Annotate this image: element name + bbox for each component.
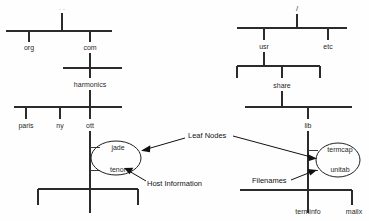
tree-diagram-svg: . . org com harmonics paris ny ott bbox=[0, 0, 369, 221]
node-share: share bbox=[273, 82, 291, 89]
left-root-mark: . . bbox=[59, 4, 65, 11]
node-termcap: termcap bbox=[327, 146, 352, 154]
node-tenor: tenor bbox=[110, 166, 127, 173]
node-unitab: unitab bbox=[330, 166, 349, 173]
node-etc: etc bbox=[323, 43, 333, 50]
annotation-host-information: Host Information bbox=[147, 179, 202, 188]
diagram-canvas: . . org com harmonics paris ny ott bbox=[0, 0, 369, 221]
node-harmonics: harmonics bbox=[74, 81, 107, 88]
node-mailx: mailx bbox=[346, 208, 363, 215]
annotations-group: Leaf Nodes Host Information Filenames bbox=[124, 131, 317, 188]
leaf-nodes-left-arrow-line bbox=[147, 138, 185, 149]
node-ny: ny bbox=[56, 122, 64, 130]
host-information-arrow-line bbox=[129, 171, 146, 181]
node-usr: usr bbox=[259, 43, 269, 50]
node-lib: lib bbox=[304, 122, 311, 129]
node-jade: jade bbox=[110, 144, 124, 152]
node-ott: ott bbox=[86, 122, 94, 129]
node-org: org bbox=[24, 44, 34, 52]
node-terminfo: terminfo bbox=[295, 208, 320, 215]
node-com: com bbox=[83, 44, 96, 51]
annotation-leaf-nodes: Leaf Nodes bbox=[188, 131, 227, 140]
right-root-mark: / bbox=[296, 4, 299, 13]
annotation-filenames: Filenames bbox=[252, 176, 287, 185]
leaf-nodes-left-arrow-head bbox=[141, 145, 150, 152]
filenames-arrow-head bbox=[308, 169, 317, 176]
leaf-nodes-right-arrow-line bbox=[233, 136, 311, 157]
node-paris: paris bbox=[18, 122, 34, 130]
left-tree-group: . . org com harmonics paris ny ott bbox=[6, 4, 141, 213]
